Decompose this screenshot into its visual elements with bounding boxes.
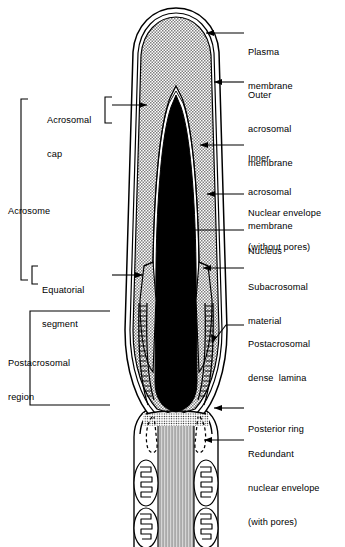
label-postacrosomal-dense-lamina: Postacrosomal dense lamina bbox=[248, 317, 310, 395]
connecting-piece bbox=[158, 416, 194, 547]
label-postacrosomal-region: Postacrosomal region bbox=[8, 336, 70, 414]
label-equatorial-segment: Equatorial segment bbox=[42, 263, 84, 341]
label-acrosome: Acrosome bbox=[8, 184, 50, 229]
basal-plate bbox=[143, 413, 209, 426]
bracket-equatorial-segment bbox=[32, 266, 38, 284]
label-redundant-nuclear-envelope: Redundant nuclear envelope (with pores) bbox=[248, 427, 320, 539]
label-acrosomal-cap: Acrosomal cap bbox=[47, 93, 91, 171]
bracket-acrosomal-cap bbox=[105, 97, 112, 123]
